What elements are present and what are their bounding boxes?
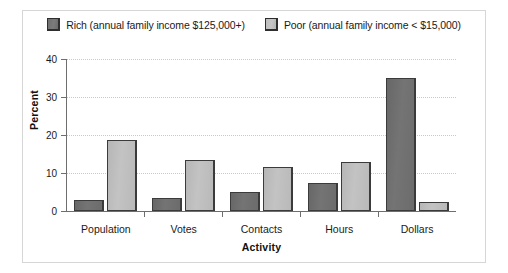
x-tick-label-hours: Hours xyxy=(325,223,353,235)
bar-group-contacts: Contacts xyxy=(223,59,301,211)
legend-label-poor: Poor (annual family income < $15,000) xyxy=(284,19,461,31)
y-tick-mark-0 xyxy=(61,211,67,212)
x-tick-label-dollars: Dollars xyxy=(401,223,434,235)
bar-rich-dollars[interactable] xyxy=(386,78,416,211)
bar-rich-votes[interactable] xyxy=(152,198,182,211)
legend-entry-rich: Rich (annual family income $125,000+) xyxy=(47,18,245,31)
legend-swatch-poor-icon xyxy=(265,18,278,31)
y-tick-label-10: 10 xyxy=(35,168,57,179)
x-axis-title: Activity xyxy=(67,241,456,253)
bar-groups: Population Votes Contacts Hours Dollars xyxy=(67,59,456,211)
y-tick-label-40: 40 xyxy=(35,54,57,65)
chart-legend: Rich (annual family income $125,000+) Po… xyxy=(22,18,486,31)
bar-poor-population[interactable] xyxy=(107,140,137,211)
legend-label-rich: Rich (annual family income $125,000+) xyxy=(66,19,245,31)
x-tick-mark-4 xyxy=(378,211,379,217)
bar-chart-figure: Rich (annual family income $125,000+) Po… xyxy=(0,0,508,273)
bar-rich-population[interactable] xyxy=(74,200,104,211)
bar-group-hours: Hours xyxy=(300,59,378,211)
x-tick-label-contacts: Contacts xyxy=(241,223,282,235)
bar-poor-contacts[interactable] xyxy=(263,167,293,211)
bar-group-votes: Votes xyxy=(145,59,223,211)
bar-poor-hours[interactable] xyxy=(341,162,371,211)
bar-group-dollars: Dollars xyxy=(378,59,456,211)
x-tick-mark-2 xyxy=(222,211,223,217)
bar-group-population: Population xyxy=(67,59,145,211)
y-axis-title: Percent xyxy=(28,75,40,145)
x-tick-label-population: Population xyxy=(81,223,131,235)
y-tick-label-0: 0 xyxy=(35,206,57,217)
x-axis-line xyxy=(66,211,456,212)
x-tick-label-votes: Votes xyxy=(171,223,197,235)
bar-poor-votes[interactable] xyxy=(185,160,215,211)
bar-poor-dollars[interactable] xyxy=(419,202,449,212)
x-tick-mark-3 xyxy=(300,211,301,217)
bar-rich-hours[interactable] xyxy=(308,183,338,212)
legend-entry-poor: Poor (annual family income < $15,000) xyxy=(265,18,461,31)
x-tick-mark-1 xyxy=(144,211,145,217)
bar-rich-contacts[interactable] xyxy=(230,192,260,211)
